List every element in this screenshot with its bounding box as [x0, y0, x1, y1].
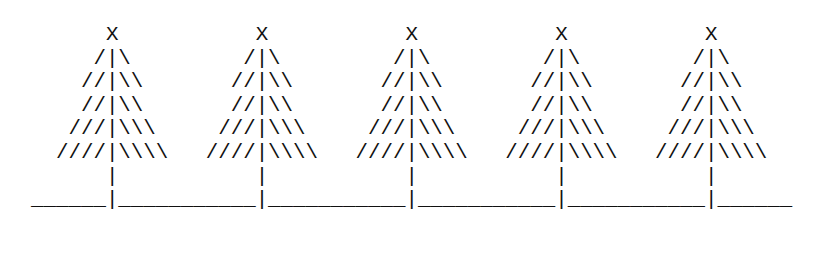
ascii-tree-art: X X X X X /|\ /|\ /|\ /|\ /|\ //|\\ //|\…	[31, 23, 792, 212]
tree-branches-row-4: ///|\\\ ///|\\\ ///|\\\ ///|\\\ ///|\\\	[31, 117, 792, 141]
tree-tops-row: X X X X X	[31, 23, 792, 47]
tree-trunks-row: | | | | |	[31, 165, 792, 189]
tree-branches-row-5: ////|\\\\ ////|\\\\ ////|\\\\ ////|\\\\ …	[31, 141, 792, 165]
tree-branches-row-1: /|\ /|\ /|\ /|\ /|\	[31, 47, 792, 71]
tree-branches-row-3: //|\\ //|\\ //|\\ //|\\ //|\\	[31, 94, 792, 118]
ground-line-row: ______|___________|___________|_________…	[31, 188, 792, 212]
tree-branches-row-2: //|\\ //|\\ //|\\ //|\\ //|\\	[31, 70, 792, 94]
